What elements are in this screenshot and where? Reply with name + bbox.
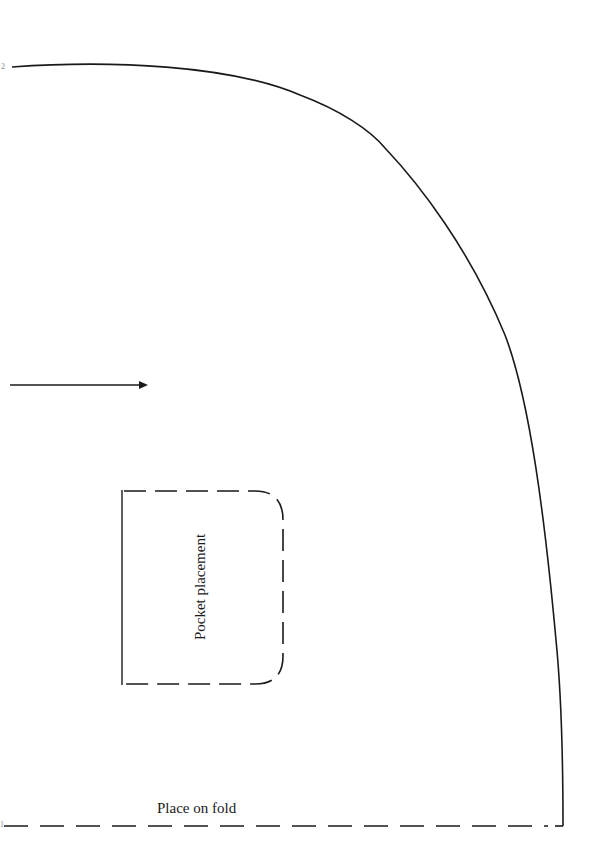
corner-mark-top: 2 [1,62,5,71]
corner-mark-bottom: 1 [0,820,4,829]
pocket-placement-label: Pocket placement [192,534,209,640]
pattern-drawing [0,0,598,861]
cutting-line-curve [12,64,563,826]
grainline-arrow-head-icon [139,381,148,389]
place-on-fold-label: Place on fold [157,800,236,817]
